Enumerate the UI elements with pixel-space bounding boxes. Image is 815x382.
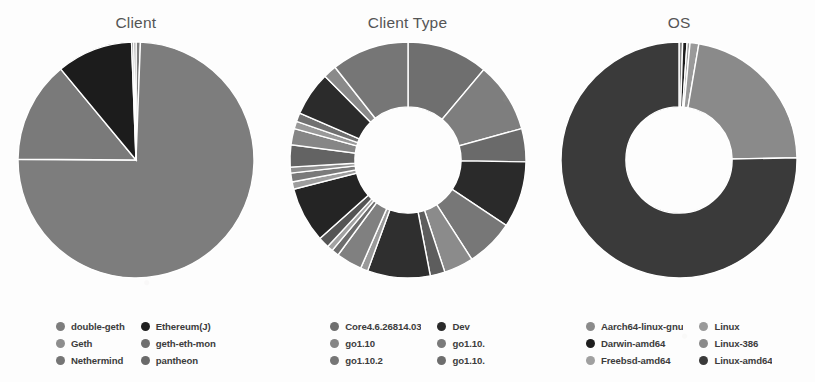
legend-swatch-icon [330,322,339,331]
legend-label: go1.10.2 [345,355,383,366]
panel-client: Client double-geth Geth Nethermind [0,0,272,382]
legend-swatch-icon [330,339,339,348]
legend-label: Dev [452,321,469,332]
pie-slices-os [561,42,797,278]
legend-client-type: Core4.6.26814.03 go1.10 go1.10.2 Dev [272,319,544,368]
pie-slices-client [18,42,254,278]
legend-swatch-icon [437,339,446,348]
list-item[interactable]: Linux-386 [699,336,772,351]
legend-label: Core4.6.26814.03 [345,321,421,332]
list-item[interactable]: go1.10 [330,336,421,351]
pie-slice[interactable] [688,44,797,159]
list-item[interactable]: Ethereum(J) [141,319,216,334]
donut-chart-client-type [284,36,532,284]
page-title-client: Client [115,14,156,32]
list-item[interactable]: go1.10. [437,336,484,351]
panel-client-type: Client Type Core4.6.26814.03 go1.10 go1.… [272,0,544,382]
pie-chart-client-svg [13,37,259,283]
legend-column-left: Core4.6.26814.03 go1.10 go1.10.2 [330,319,421,368]
legend-swatch-icon [437,356,446,365]
list-item[interactable]: Aarch64-linux-gnu [586,319,684,334]
page-title-os: OS [668,14,691,32]
legend-label: Aarch64-linux-gnu [601,321,684,332]
legend-swatch-icon [56,339,65,348]
legend-column-right: Ethereum(J) geth-eth-mon pantheon [141,319,216,368]
legend-label: pantheon [156,355,198,366]
legend-column-right: Dev go1.10. go1.10. [437,319,484,368]
legend-swatch-icon [141,356,150,365]
list-item[interactable]: Nethermind [56,353,125,368]
legend-swatch-icon [586,339,595,348]
legend-label: Nethermind [71,355,123,366]
legend-client: double-geth Geth Nethermind Ethereum(J) [0,319,272,368]
list-item[interactable]: geth-eth-mon [141,336,216,351]
legend-swatch-icon [586,322,595,331]
legend-label: go1.10. [452,355,484,366]
list-item[interactable]: Core4.6.26814.03 [330,319,421,334]
donut-chart-os [555,36,803,284]
list-item[interactable]: Geth [56,336,125,351]
legend-swatch-icon [586,356,595,365]
list-item[interactable]: pantheon [141,353,216,368]
list-item[interactable]: go1.10.2 [330,353,421,368]
legend-os: Aarch64-linux-gnu Darwin-amd64 Freebsd-a… [543,319,815,368]
donut-chart-os-svg [556,37,802,283]
legend-swatch-icon [56,322,65,331]
list-item[interactable]: Freebsd-amd64 [586,353,684,368]
legend-label: Linux [714,321,739,332]
legend-label: Ethereum(J) [156,321,211,332]
page-title-client-type: Client Type [368,14,447,32]
legend-swatch-icon [437,322,446,331]
legend-swatch-icon [141,322,150,331]
list-item[interactable]: Linux-amd64 [699,353,772,368]
legend-label: Linux-386 [714,338,758,349]
donut-chart-client-type-svg [285,37,531,283]
legend-label: go1.10. [452,338,484,349]
legend-label: double-geth [71,321,125,332]
legend-column-left: double-geth Geth Nethermind [56,319,125,368]
legend-column-right: Linux Linux-386 Linux-amd64 [699,319,772,368]
legend-swatch-icon [56,356,65,365]
panel-os: OS Aarch64-linux-gnu Darwin-amd64 Freebs… [543,0,815,382]
legend-swatch-icon [141,339,150,348]
legend-swatch-icon [699,322,708,331]
legend-label: geth-eth-mon [156,338,216,349]
list-item[interactable]: go1.10. [437,353,484,368]
list-item[interactable]: Darwin-amd64 [586,336,684,351]
list-item[interactable]: Linux [699,319,772,334]
legend-label: Linux-amd64 [714,355,772,366]
legend-label: Geth [71,338,92,349]
list-item[interactable]: double-geth [56,319,125,334]
legend-swatch-icon [330,356,339,365]
legend-label: Freebsd-amd64 [601,355,671,366]
legend-label: Darwin-amd64 [601,338,665,349]
pie-chart-client [12,36,260,284]
legend-swatch-icon [699,356,708,365]
legend-column-left: Aarch64-linux-gnu Darwin-amd64 Freebsd-a… [586,319,684,368]
list-item[interactable]: Dev [437,319,484,334]
charts-board: Client double-geth Geth Nethermind [0,0,815,382]
legend-label: go1.10 [345,338,375,349]
legend-swatch-icon [699,339,708,348]
pie-slices-client-type [290,42,526,278]
